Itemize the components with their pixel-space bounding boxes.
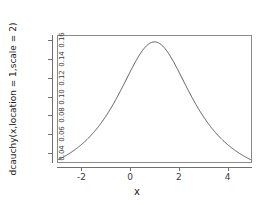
y-tick-label: 0.14 <box>58 59 66 75</box>
x-tick-label: -2 <box>77 172 86 182</box>
y-tick-label: 0.12 <box>58 78 66 94</box>
x-tick-mark <box>228 167 229 171</box>
y-axis-title: dcauchy(x,location = 1,scale = 2) <box>8 7 18 192</box>
density-curve <box>58 36 251 162</box>
y-tick-mark <box>48 134 52 135</box>
y-tick-mark <box>48 40 52 41</box>
y-tick-mark <box>48 153 52 154</box>
y-tick-label: 0.04 <box>58 153 66 169</box>
x-tick-mark <box>179 167 180 171</box>
x-axis-line <box>57 167 252 168</box>
y-tick-mark <box>48 78 52 79</box>
plot-panel <box>57 35 252 163</box>
x-tick-mark <box>130 167 131 171</box>
x-tick-label: 4 <box>225 172 231 182</box>
y-tick-mark <box>48 59 52 60</box>
y-tick-label: 0.10 <box>58 97 66 113</box>
y-axis-line <box>52 35 53 163</box>
y-tick-label: 0.16 <box>58 40 66 56</box>
cauchy-density-figure: -2024 0.040.060.080.100.120.140.16 x dca… <box>0 0 274 205</box>
y-tick-mark <box>48 115 52 116</box>
x-axis-title: x <box>0 186 274 197</box>
x-tick-label: 2 <box>176 172 182 182</box>
x-tick-label: 0 <box>127 172 133 182</box>
x-tick-mark <box>81 167 82 171</box>
y-tick-mark <box>48 97 52 98</box>
y-tick-label: 0.08 <box>58 115 66 131</box>
y-axis-title-wrap: dcauchy(x,location = 1,scale = 2) <box>0 0 20 205</box>
y-tick-label: 0.06 <box>58 134 66 150</box>
cauchy-curve-path <box>58 42 251 160</box>
